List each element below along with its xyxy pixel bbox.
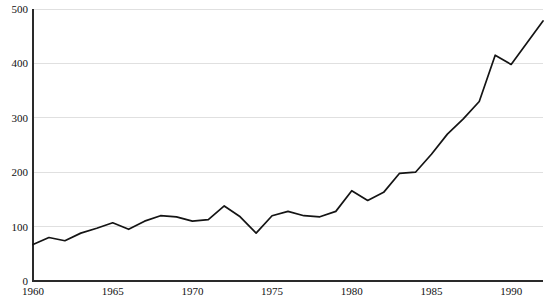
- x-tick-label: 1970: [181, 285, 204, 297]
- line-chart: 0100200300400500 19601965197019751980198…: [0, 0, 550, 303]
- x-tick-label: 1980: [341, 285, 364, 297]
- x-tick-label: 1990: [500, 285, 523, 297]
- chart-background: [0, 0, 550, 303]
- x-tick-label: 1960: [22, 285, 45, 297]
- x-tick-label: 1985: [420, 285, 443, 297]
- y-tick-label: 300: [12, 112, 29, 124]
- chart-canvas: 0100200300400500 19601965197019751980198…: [0, 0, 550, 303]
- y-tick-label: 500: [12, 3, 29, 15]
- y-tick-label: 400: [12, 57, 29, 69]
- x-tick-label: 1975: [261, 285, 284, 297]
- y-tick-label: 100: [12, 221, 29, 233]
- x-tick-label: 1965: [102, 285, 125, 297]
- y-tick-label: 200: [12, 166, 29, 178]
